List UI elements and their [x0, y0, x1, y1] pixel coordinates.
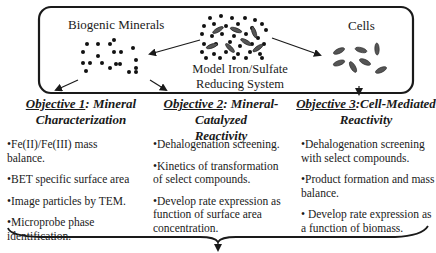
objective-2: Objective 2: Mineral-Catalyzed Reactivit…	[140, 96, 302, 144]
arrow-to-objective-1	[56, 80, 78, 90]
objective-2-title: Objective 2: Mineral-Catalyzed Reactivit…	[140, 96, 302, 144]
list-item: •Microprobe phase identification.	[7, 216, 97, 243]
arrow-to-cells	[272, 38, 320, 55]
list-item: •Fe(II)/Fe(III) mass balance.	[7, 138, 137, 165]
list-item: •Develop rate expression as function of …	[153, 195, 283, 236]
model-system-label: Model Iron/Sulfate Reducing System	[180, 62, 300, 92]
objective-2-prefix: Objective 2	[164, 96, 224, 111]
model-system-label-line1: Model Iron/Sulfate	[180, 62, 300, 77]
list-item: •Product formation and mass balance.	[301, 173, 435, 200]
cells-icon	[333, 43, 388, 75]
list-item: •Image particles by TEM.	[7, 195, 137, 209]
objective-3-bullets: •Dehalogenation screening with select co…	[301, 138, 435, 243]
iron-sulfate-system-icon	[200, 14, 268, 60]
biogenic-minerals-label: Biogenic Minerals	[68, 17, 164, 33]
mineral-particles-icon	[81, 38, 138, 74]
objective-1-title-rest: : Mineral	[85, 96, 136, 111]
arrow-to-minerals	[150, 40, 200, 54]
objective-1-prefix: Objective 1	[26, 96, 86, 111]
objective-3-prefix: Objective 3	[296, 96, 356, 111]
list-item: •BET specific surface area	[7, 173, 137, 187]
objective-3: Objective 3:Cell-Mediated Reactivity	[296, 96, 436, 128]
objective-1-title-line2: Characterization	[36, 112, 126, 127]
objective-1-title: Objective 1: Mineral Characterization	[6, 96, 156, 128]
cells-label: Cells	[348, 18, 375, 34]
objective-3-title-line2: Reactivity	[340, 112, 393, 127]
list-item: •Dehalogenation screening.	[153, 138, 283, 152]
objective-1: Objective 1: Mineral Characterization	[6, 96, 156, 128]
objective-2-bullets: •Dehalogenation screening. •Kinetics of …	[153, 138, 283, 243]
arrow-to-objective-2	[150, 80, 166, 90]
list-item: •Kinetics of transformation of select co…	[153, 160, 283, 187]
list-item: •Dehalogenation screening with select co…	[301, 138, 435, 165]
objective-1-bullets: •Fe(II)/Fe(III) mass balance. •BET speci…	[7, 138, 137, 251]
objective-3-title-rest: :Cell-Mediated	[356, 96, 436, 111]
objective-3-title: Objective 3:Cell-Mediated Reactivity	[296, 96, 436, 128]
model-system-label-line2: Reducing System	[180, 77, 300, 92]
list-item: • Develop rate expression as a function …	[301, 208, 435, 235]
